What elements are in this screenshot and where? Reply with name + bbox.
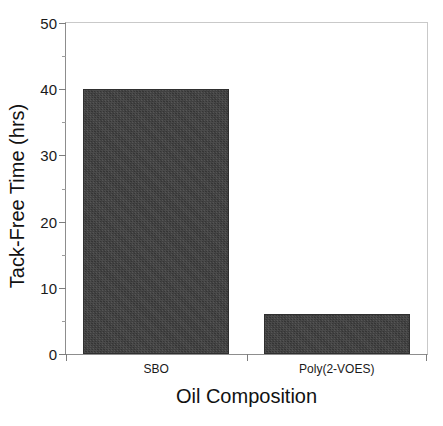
bar-chart-figure: Tack-Free Time (hrs) 01020304050 SBOPoly… bbox=[0, 0, 443, 426]
y-axis-tick bbox=[59, 222, 66, 223]
y-axis-tick-label: 10 bbox=[40, 280, 57, 295]
y-axis-tick-label: 0 bbox=[49, 347, 57, 362]
y-axis-minor-tick bbox=[62, 122, 66, 123]
y-axis-minor-tick bbox=[62, 56, 66, 57]
y-axis-tick bbox=[59, 23, 66, 24]
bar bbox=[83, 89, 229, 354]
y-axis-title-text: Tack-Free Time (hrs) bbox=[7, 104, 27, 288]
x-axis-tick-label: Poly(2-VOES) bbox=[299, 363, 374, 375]
plot-area: 01020304050 SBOPoly(2-VOES) bbox=[65, 22, 428, 355]
y-axis-minor-tick bbox=[62, 321, 66, 322]
x-axis-tick-label: SBO bbox=[144, 363, 169, 375]
y-axis-title: Tack-Free Time (hrs) bbox=[4, 96, 30, 296]
y-axis-minor-tick bbox=[62, 255, 66, 256]
y-axis-tick-label: 30 bbox=[40, 148, 57, 163]
y-axis-tick bbox=[59, 288, 66, 289]
x-axis-title: Oil Composition bbox=[65, 386, 428, 406]
y-axis-tick bbox=[59, 155, 66, 156]
x-axis-tick bbox=[247, 354, 248, 361]
x-axis-tick bbox=[426, 354, 427, 361]
y-axis-tick bbox=[59, 89, 66, 90]
x-axis-tick bbox=[66, 354, 67, 361]
y-axis-tick bbox=[59, 354, 66, 355]
y-axis-tick-label: 50 bbox=[40, 16, 57, 31]
y-axis-minor-tick bbox=[62, 189, 66, 190]
y-axis-tick-label: 20 bbox=[40, 214, 57, 229]
y-axis-tick-label: 40 bbox=[40, 82, 57, 97]
bar bbox=[264, 314, 410, 354]
